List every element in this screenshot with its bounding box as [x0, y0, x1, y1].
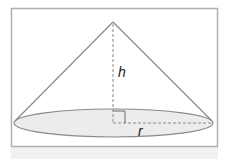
- height-label: h: [118, 64, 126, 80]
- cone-diagram: h r: [0, 0, 229, 159]
